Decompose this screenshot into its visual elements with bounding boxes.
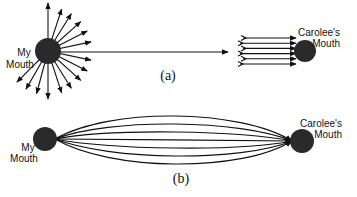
carolees-mouth-label-b-2: Mouth bbox=[314, 129, 342, 140]
beam-line bbox=[55, 139, 292, 164]
carolees-mouth-ball-b bbox=[290, 129, 314, 153]
carolees-mouth-label-a-2: Mouth bbox=[312, 38, 340, 49]
converging-arrows bbox=[238, 36, 296, 67]
diagram-canvas: My Mouth Carolee's Mouth (a) My Mouth Ca… bbox=[0, 0, 357, 197]
beam-line bbox=[55, 139, 292, 141]
my-mouth-label-a-2: Mouth bbox=[6, 59, 34, 70]
caption-b: (b) bbox=[173, 171, 190, 187]
carolees-mouth-label-a: Carolee's bbox=[298, 27, 340, 38]
my-mouth-ball-b bbox=[33, 127, 57, 151]
my-mouth-ball-a bbox=[35, 38, 61, 64]
caption-a: (a) bbox=[160, 68, 176, 84]
my-mouth-label-a: My bbox=[17, 47, 30, 58]
panel-b: My Mouth Carolee's Mouth (b) bbox=[10, 116, 342, 187]
beam-line bbox=[55, 116, 292, 141]
my-mouth-label-b: My bbox=[21, 142, 34, 153]
beam-lines bbox=[55, 116, 292, 164]
my-mouth-label-b-2: Mouth bbox=[10, 153, 38, 164]
carolees-mouth-label-b: Carolee's bbox=[300, 118, 342, 129]
panel-a: My Mouth Carolee's Mouth (a) bbox=[6, 3, 340, 99]
